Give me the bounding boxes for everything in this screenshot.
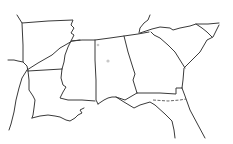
mississippi-river-east-arkansas <box>62 41 71 69</box>
railway-diagonal <box>27 40 80 70</box>
alabama-georgia-border <box>124 36 137 93</box>
arkansas-west-border <box>22 23 28 71</box>
texas-oklahoma-red-river <box>8 60 23 62</box>
mississippi-river-louisiana <box>60 69 95 101</box>
map-markers <box>97 44 110 63</box>
southeast-us-map <box>0 0 233 144</box>
state-borders <box>8 15 219 138</box>
marker-dot-1 <box>97 44 100 47</box>
arkansas-north-border <box>17 15 74 41</box>
georgia-florida-border <box>137 88 182 94</box>
marker-dot-2 <box>106 59 109 62</box>
texas-louisiana-border <box>28 71 35 118</box>
florida-atlantic-coast <box>182 88 205 138</box>
mississippi-alabama-border <box>95 40 98 104</box>
south-carolina-west-border <box>151 32 185 68</box>
louisiana-coast <box>32 108 84 121</box>
louisiana-arkansas-border <box>28 69 62 71</box>
georgia-atlantic-border <box>182 25 219 88</box>
florida-panhandle-coast <box>116 97 175 138</box>
tennessee-south-border <box>72 32 149 41</box>
georgia-florida-dashed <box>153 99 186 101</box>
north-carolina-south-carolina-border <box>196 24 212 37</box>
texas-east-outline <box>9 70 27 130</box>
